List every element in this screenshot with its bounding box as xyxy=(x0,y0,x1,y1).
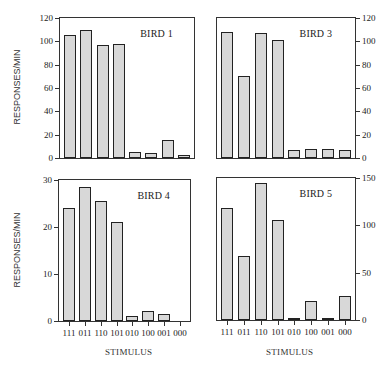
y-tick xyxy=(54,227,58,228)
y-tick xyxy=(356,158,360,159)
y-tick-label: 20 xyxy=(30,223,52,232)
bar-010 xyxy=(288,150,300,158)
y-tick-label: 100 xyxy=(362,221,376,230)
bar-001 xyxy=(158,314,170,321)
y-tick xyxy=(356,18,360,19)
bar-101 xyxy=(111,222,123,321)
panel-bird-4: BIRD 4 xyxy=(58,179,191,322)
x-tick xyxy=(227,321,228,325)
x-tick xyxy=(244,321,245,325)
bar-001 xyxy=(322,149,334,158)
y-tick-label: 30 xyxy=(30,176,52,185)
y-tick xyxy=(356,88,360,89)
bar-011 xyxy=(238,256,250,320)
x-tick xyxy=(261,321,262,325)
x-tick xyxy=(164,322,165,326)
x-tick xyxy=(311,321,312,325)
x-tick xyxy=(345,321,346,325)
y-tick-label: 150 xyxy=(362,174,376,183)
y-tick xyxy=(55,135,59,136)
x-tick-label: 000 xyxy=(170,328,190,338)
x-axis-title-left: STIMULUS xyxy=(105,347,152,357)
x-tick xyxy=(328,321,329,325)
y-tick xyxy=(54,180,58,181)
y-tick-label: 80 xyxy=(31,61,53,70)
bar-011 xyxy=(79,187,91,321)
y-tick-label: 10 xyxy=(30,270,52,279)
x-tick xyxy=(294,321,295,325)
bar-111 xyxy=(64,35,76,158)
y-tick-label: 20 xyxy=(362,131,371,140)
x-tick xyxy=(132,322,133,326)
bar-100 xyxy=(142,311,154,321)
x-tick xyxy=(180,322,181,326)
y-tick-label: 0 xyxy=(30,317,52,326)
bar-101 xyxy=(272,40,284,158)
y-tick-label: 80 xyxy=(362,61,371,70)
y-tick-label: 40 xyxy=(362,107,371,116)
bar-011 xyxy=(80,30,92,158)
x-tick xyxy=(101,322,102,326)
bar-111 xyxy=(63,208,75,321)
y-tick xyxy=(55,111,59,112)
bar-100 xyxy=(305,149,317,158)
y-axis-title-bottom: RESPONSES/MIN xyxy=(12,210,22,290)
y-tick xyxy=(55,88,59,89)
y-tick-label: 50 xyxy=(362,269,371,278)
bar-110 xyxy=(255,33,267,158)
x-tick xyxy=(148,322,149,326)
panel-bird-5: BIRD 5 xyxy=(216,177,356,321)
x-axis-title-right: STIMULUS xyxy=(266,347,313,357)
panel-title: BIRD 3 xyxy=(300,28,333,39)
y-tick-label: 0 xyxy=(31,154,53,163)
panel-title: BIRD 5 xyxy=(300,188,333,199)
bar-110 xyxy=(95,201,107,321)
y-tick-label: 0 xyxy=(362,316,367,325)
panel-title: BIRD 1 xyxy=(140,28,173,39)
bar-100 xyxy=(305,301,317,320)
y-tick-label: 120 xyxy=(362,14,376,23)
panel-title: BIRD 4 xyxy=(137,190,170,201)
y-tick xyxy=(55,65,59,66)
bar-000 xyxy=(339,150,351,158)
y-tick-label: 60 xyxy=(31,84,53,93)
bar-000 xyxy=(178,155,190,158)
y-tick xyxy=(356,273,360,274)
bar-110 xyxy=(97,45,109,158)
bar-101 xyxy=(113,44,125,158)
bar-010 xyxy=(126,316,138,321)
x-tick xyxy=(85,322,86,326)
y-tick xyxy=(55,18,59,19)
panel-bird-3: BIRD 3 xyxy=(216,17,356,159)
y-tick xyxy=(356,178,360,179)
y-tick-label: 100 xyxy=(362,37,376,46)
y-tick xyxy=(54,274,58,275)
bar-010 xyxy=(129,152,141,158)
x-tick-label: 000 xyxy=(335,327,355,337)
y-tick xyxy=(356,135,360,136)
y-tick xyxy=(54,321,58,322)
y-tick xyxy=(55,41,59,42)
y-tick xyxy=(356,65,360,66)
y-tick-label: 120 xyxy=(31,14,53,23)
y-axis-title-top: RESPONSES/MIN xyxy=(12,47,22,127)
panel-bird-1: BIRD 1 xyxy=(59,17,195,159)
y-tick xyxy=(356,41,360,42)
bar-100 xyxy=(145,153,157,158)
bar-111 xyxy=(221,208,233,320)
y-tick-label: 0 xyxy=(362,154,367,163)
bar-111 xyxy=(221,32,233,158)
y-tick xyxy=(356,320,360,321)
y-tick-label: 60 xyxy=(362,84,371,93)
x-tick xyxy=(278,321,279,325)
bar-000 xyxy=(339,296,351,320)
y-tick xyxy=(55,158,59,159)
bar-011 xyxy=(238,76,250,158)
y-tick-label: 40 xyxy=(31,107,53,116)
bar-010 xyxy=(288,318,300,320)
y-tick xyxy=(356,225,360,226)
bar-110 xyxy=(255,183,267,320)
y-tick xyxy=(356,111,360,112)
bar-001 xyxy=(322,318,334,320)
x-tick xyxy=(117,322,118,326)
